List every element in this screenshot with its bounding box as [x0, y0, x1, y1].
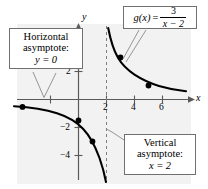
x-tick-4: 4 — [131, 102, 136, 112]
vertical-callout-leader — [107, 129, 125, 140]
y-tick-neg4: −4 — [60, 150, 70, 160]
formula-function-name: g(x) — [134, 12, 151, 23]
y-axis-label: y — [82, 11, 86, 22]
formula-numerator: 3 — [169, 6, 178, 16]
vertical-callout-line1: Vertical — [127, 137, 193, 148]
vertical-callout-line2: asymptote: — [127, 148, 193, 159]
point-1-neg3 — [90, 139, 96, 145]
x-tick-6: 6 — [159, 102, 164, 112]
horizontal-callout-line1: Horizontal — [12, 31, 80, 42]
horizontal-callout-leader — [33, 72, 56, 98]
point-0-neg1.5 — [76, 118, 82, 124]
x-tick-2: 2 — [103, 102, 108, 112]
function-formula-callout: g(x) = 3 x − 2 — [123, 6, 197, 29]
horizontal-asymptote-callout: Horizontal asymptote: y = 0 — [9, 28, 83, 69]
point-3-3 — [118, 55, 124, 61]
figure-container: x y 2 4 6 4 2 −2 −4 Horizontal asymptote… — [0, 0, 208, 189]
formula-equals-sign: = — [152, 12, 158, 23]
horizontal-callout-line3: y = 0 — [12, 54, 80, 65]
y-tick-neg2: −2 — [60, 122, 70, 132]
formula-denominator: x − 2 — [161, 19, 186, 29]
formula-callout-leader — [123, 30, 146, 62]
point-5-1 — [146, 83, 152, 89]
point-neg4-neg0.5 — [20, 104, 26, 110]
formula-fraction: 3 x − 2 — [160, 6, 186, 29]
x-axis-label: x — [196, 92, 200, 103]
vertical-asymptote-callout: Vertical asymptote: x = 2 — [124, 134, 196, 175]
vertical-callout-line3: x = 2 — [127, 160, 193, 171]
horizontal-callout-line2: asymptote: — [12, 42, 80, 53]
